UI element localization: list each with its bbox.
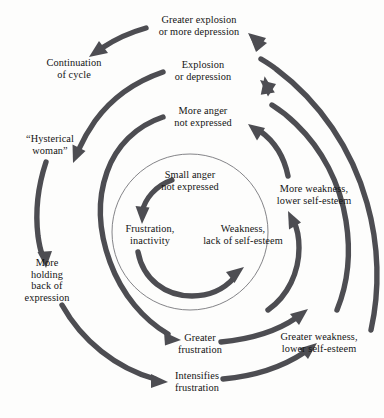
arrow-frustration-to-weakness (138, 252, 244, 296)
arrow-greater-explosion-to-continuation (89, 28, 146, 57)
arrow-greater-weakness-to-greater-explosion (248, 33, 377, 330)
arrow-greater-frustration-to-greater-weakness (221, 309, 308, 342)
arrow-more-anger-to-greater-frustration (101, 117, 181, 346)
inner-circle (112, 154, 268, 310)
spiral-diagram: Greater explosion or more depression Con… (0, 0, 384, 418)
arrow-more-weakness-to-more-anger (248, 124, 288, 176)
arrow-intensifies-to-greater-weakness (223, 343, 317, 379)
arrow-hysterical-to-more-holding (37, 162, 52, 268)
spiral-arrows-graphic (0, 0, 384, 418)
arrow-greater-weakness-to-explosion (256, 76, 349, 310)
arrow-more-holding-to-intensifies (62, 305, 168, 388)
arrow-weakness-to-more-weakness (268, 211, 301, 310)
arrow-small-anger-to-frustration (136, 180, 173, 224)
